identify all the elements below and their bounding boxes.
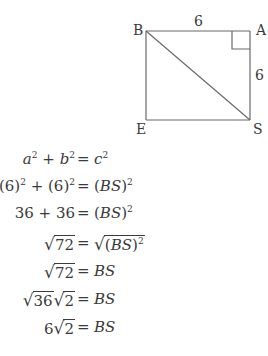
equation-lhs: √72	[44, 234, 75, 254]
radical-icon: √2	[54, 290, 75, 310]
radical-icon: √36	[23, 290, 54, 310]
equation-lhs: a2 + b2	[23, 150, 75, 168]
equation-rhs: BS	[94, 262, 115, 280]
equation-rhs: √(BS)2	[94, 234, 145, 254]
vertex-label-A: A	[255, 22, 267, 38]
radical-icon: √(BS)2	[94, 234, 145, 254]
equation-lhs: 36 + 36	[15, 204, 75, 222]
equation-line-5: √72 = BS	[0, 262, 200, 286]
equation-rhs: (BS)2	[94, 177, 133, 195]
radical-icon: √72	[44, 262, 75, 282]
right-angle-marker-icon	[232, 31, 250, 49]
equation-rhs: (BS)2	[94, 204, 133, 222]
equation-line-7: 6√2 = BS	[0, 318, 200, 342]
equals-sign: =	[77, 262, 90, 280]
equation-lhs: √36√2	[23, 290, 75, 310]
equation-rhs: BS	[94, 290, 115, 308]
equation-lhs: 6√2	[44, 318, 75, 338]
equation-line-3: 36 + 36 = (BS)2	[0, 204, 200, 228]
vertex-label-E: E	[136, 121, 146, 137]
equals-sign: =	[77, 150, 90, 168]
equals-sign: =	[77, 234, 90, 252]
side-label-BA: 6	[194, 13, 203, 29]
vertex-label-S: S	[253, 121, 263, 137]
equals-sign: =	[77, 290, 90, 308]
equation-rhs: BS	[94, 318, 115, 336]
equals-sign: =	[77, 204, 90, 222]
rectangle-diagram: B A E S 6 6	[0, 0, 268, 140]
equation-line-2: (6)2 + (6)2 = (BS)2	[0, 177, 200, 201]
equation-line-4: √72 = √(BS)2	[0, 234, 200, 258]
radical-icon: √72	[44, 234, 75, 254]
equation-lhs: √72	[44, 262, 75, 282]
side-label-AS: 6	[255, 67, 264, 83]
equals-sign: =	[77, 177, 90, 195]
radical-icon: √2	[54, 318, 75, 338]
equation-line-1: a2 + b2 = c2	[0, 150, 200, 174]
equation-lhs: (6)2 + (6)2	[0, 177, 75, 195]
equation-line-6: √36√2 = BS	[0, 290, 200, 314]
vertex-label-B: B	[133, 22, 143, 38]
diagonal-BS	[146, 31, 250, 120]
equals-sign: =	[77, 318, 90, 336]
equation-rhs: c2	[94, 150, 108, 168]
